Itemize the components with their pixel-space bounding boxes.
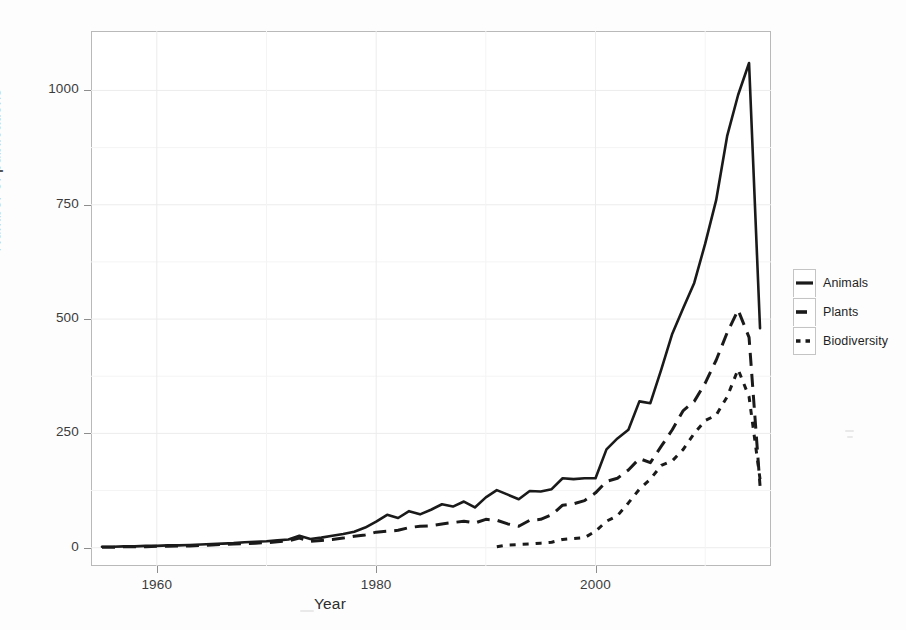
series-line-biodiversity [497,369,760,546]
legend-item-biodiversity[interactable]: Biodiversity [793,326,817,355]
legend-key-solid-icon [793,269,816,297]
series-layer [91,31,771,566]
series-line-plants [102,310,760,547]
legend-key-dashed-icon [793,298,816,326]
x-tick-mark [376,566,377,573]
series-line-animals [102,63,760,547]
y-axis-title: Number of publications [0,40,4,300]
x-tick-label: 1960 [122,577,192,592]
legend-label: Animals [823,276,868,290]
y-tick-mark [84,548,91,549]
y-tick-label: 0 [29,539,79,554]
legend-key-dotted-icon [793,327,816,355]
scan-artifact [845,430,854,432]
chart-legend: AnimalsPlantsBiodiversity [793,268,817,355]
y-tick-label: 250 [29,424,79,439]
x-tick-label: 1980 [341,577,411,592]
y-tick-mark [84,433,91,434]
legend-label: Biodiversity [823,334,888,348]
x-tick-mark [157,566,158,573]
scan-artifact [847,436,853,438]
legend-label: Plants [823,305,858,319]
legend-item-plants[interactable]: Plants [793,297,817,326]
y-tick-label: 750 [29,196,79,211]
chart-page: 02505007501000196019802000 Number of pub… [0,0,906,630]
y-tick-mark [84,319,91,320]
plot-area [91,31,771,566]
x-axis-title: Year [230,595,430,613]
x-tick-label: 2000 [561,577,631,592]
y-tick-label: 500 [29,310,79,325]
x-tick-mark [596,566,597,573]
y-tick-label: 1000 [29,81,79,96]
y-tick-mark [84,205,91,206]
y-tick-mark [84,90,91,91]
legend-item-animals[interactable]: Animals [793,268,817,297]
